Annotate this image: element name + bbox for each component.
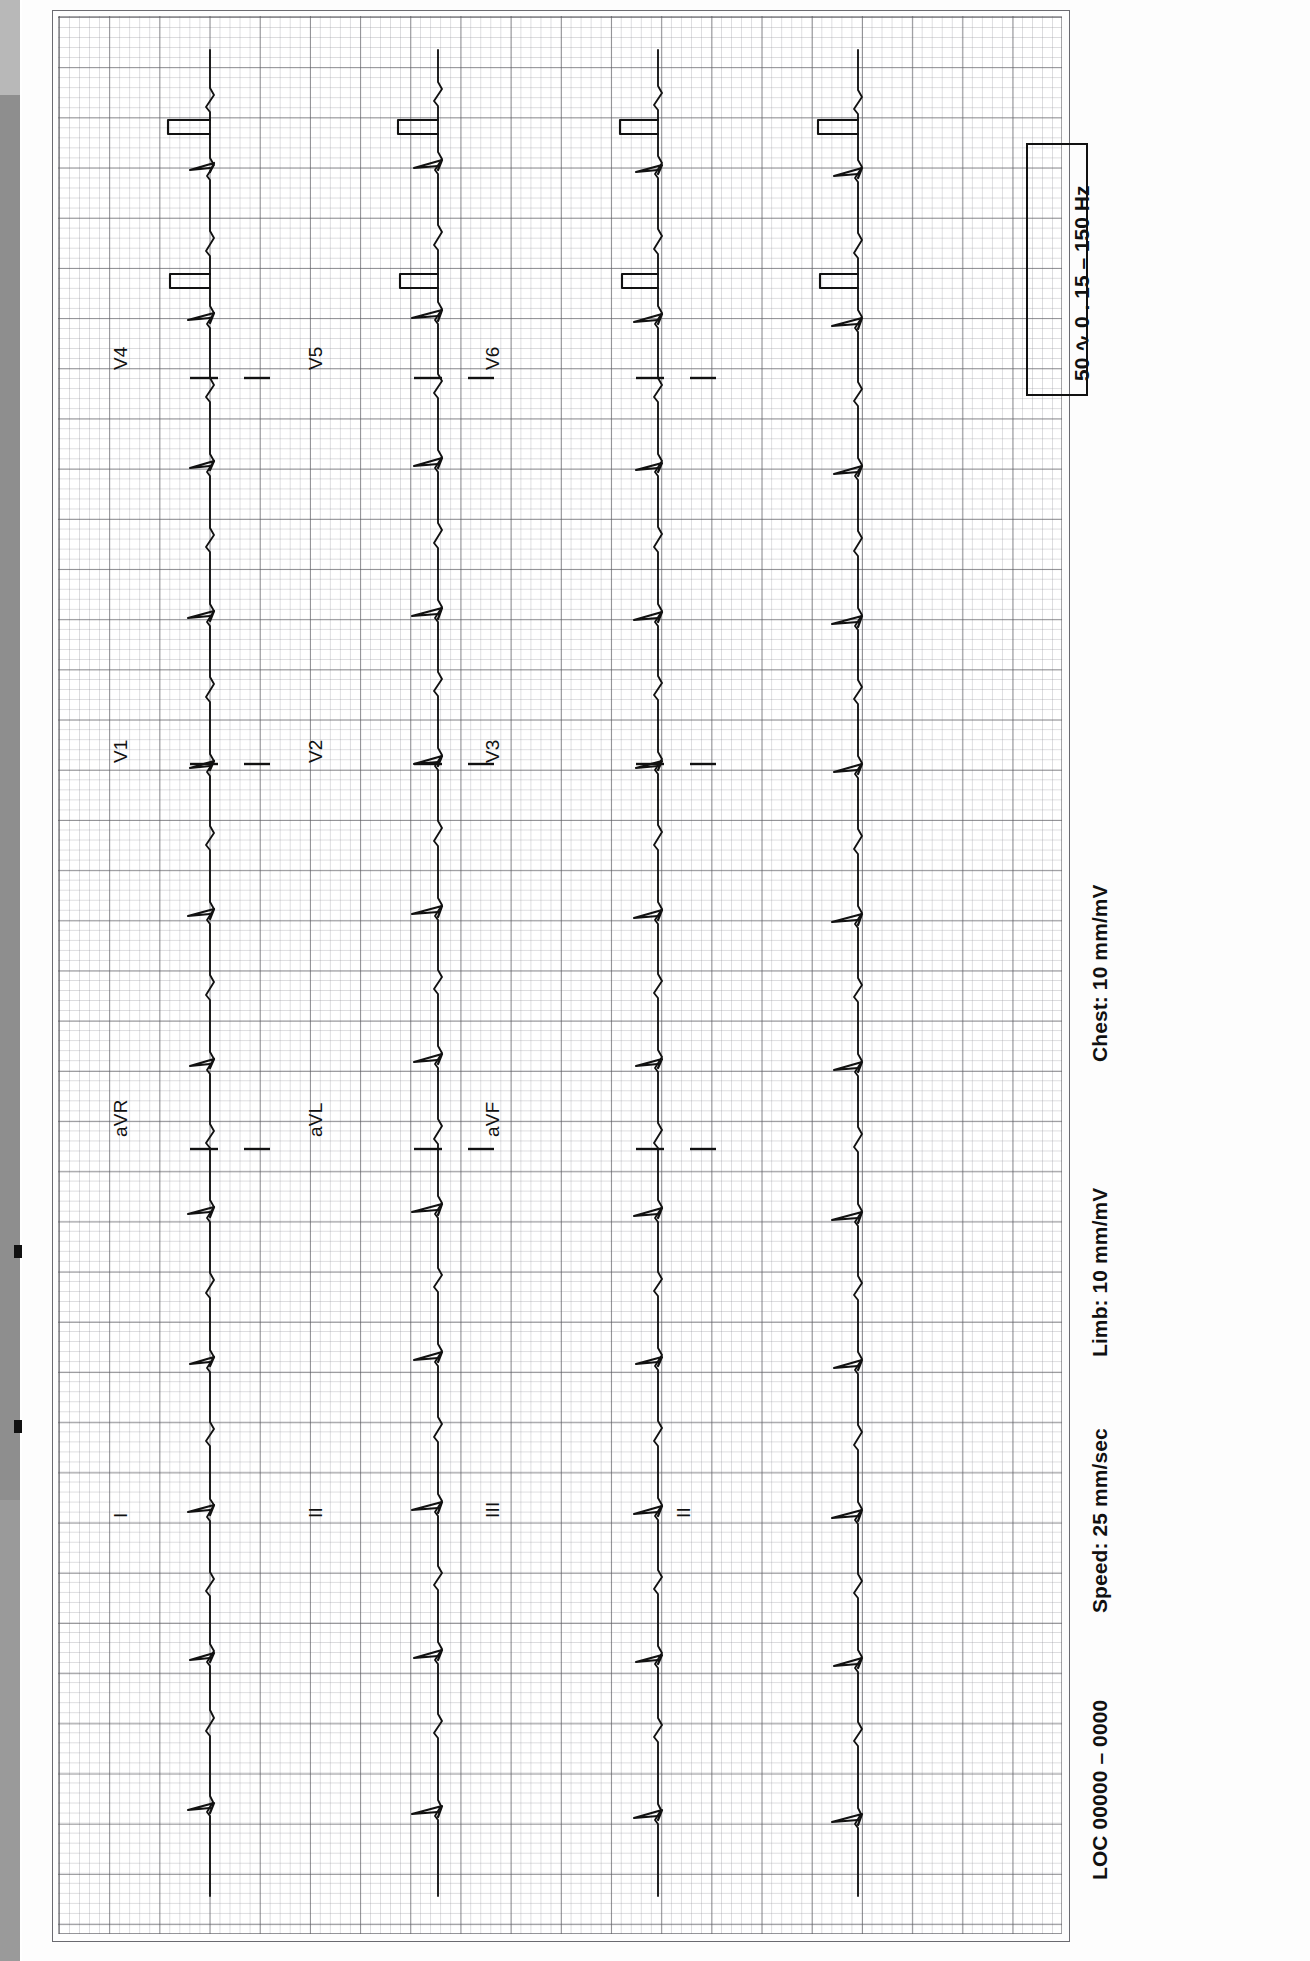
footer-location: LOC 00000 – 0000: [1088, 1700, 1112, 1880]
footer-speed: Speed: 25 mm/sec: [1088, 1428, 1112, 1613]
lead-label-aVR: aVR: [110, 1099, 132, 1137]
lead-label-V5: V5: [305, 346, 327, 370]
filter-settings-box: 50 ∿ 0 . 15 – 150 Hz: [1026, 143, 1088, 396]
lead-label-II: II: [305, 1507, 327, 1518]
footer-chest-gain: Chest: 10 mm/mV: [1088, 884, 1112, 1062]
lead-label-V4: V4: [110, 346, 132, 370]
lead-label-I: I: [110, 1513, 132, 1518]
lead-label-III: III: [482, 1502, 504, 1518]
ecg-paper: I II III II aVR aVL aVF V1 V2 V3 V4 V5 V…: [22, 0, 1310, 1961]
lead-label-aVL: aVL: [305, 1103, 327, 1137]
scanner-edge-bar: [0, 0, 20, 1961]
filter-settings-text: 50 ∿ 0 . 15 – 150 Hz: [1070, 186, 1094, 381]
scanner-edge-dark: [0, 1500, 20, 1961]
lead-label-aVF: aVF: [482, 1102, 504, 1137]
ecg-page: I II III II aVR aVL aVF V1 V2 V3 V4 V5 V…: [0, 0, 1310, 1961]
footer-limb-gain: Limb: 10 mm/mV: [1088, 1188, 1112, 1357]
ecg-waveform-layer: [58, 16, 1062, 1934]
scanner-edge-light: [0, 0, 20, 95]
lead-label-V6: V6: [482, 346, 504, 370]
lead-label-V1: V1: [110, 739, 132, 763]
lead-label-V2: V2: [305, 739, 327, 763]
lead-label-II-rhythm: II: [673, 1507, 695, 1518]
lead-label-V3: V3: [482, 739, 504, 763]
